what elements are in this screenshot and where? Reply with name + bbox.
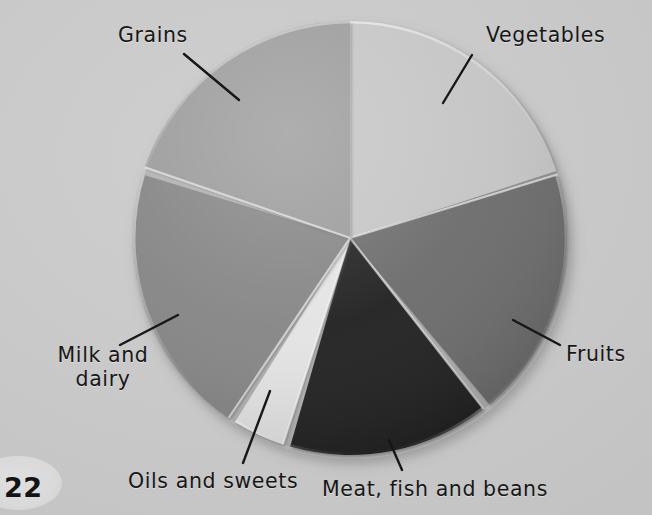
slice-label-meat-fish-and-beans: Meat, fish and beans (322, 478, 548, 501)
page-number: 22 (4, 472, 43, 503)
slice-label-milk-line2: dairy (44, 368, 162, 392)
pie-chart-svg (0, 0, 652, 515)
pie-slices (133, 21, 567, 455)
slice-label-oils-and-sweets: Oils and sweets (128, 470, 298, 493)
slice-label-vegetables: Vegetables (486, 24, 605, 47)
page-canvas: Grains Vegetables Fruits Milk and dairy … (0, 0, 652, 515)
slice-label-milk-and-dairy: Milk and dairy (44, 344, 162, 391)
slice-label-milk-line1: Milk and (44, 344, 162, 368)
slice-label-grains: Grains (118, 24, 188, 47)
pie-chart: Grains Vegetables Fruits Milk and dairy … (0, 0, 652, 515)
slice-label-fruits: Fruits (566, 343, 626, 366)
